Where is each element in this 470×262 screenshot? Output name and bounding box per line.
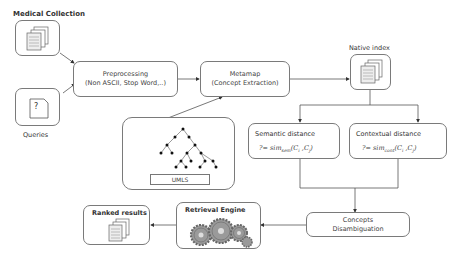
question-mark-glyph: ? (34, 102, 38, 111)
queries-label: Queries (23, 131, 48, 139)
contextual-distance-formula: ?= simcont(Ci ,Cj) (362, 144, 417, 153)
metamap-node: Metamap (Concept Extraction) (200, 61, 290, 97)
medical-collection-label: Medical Collection (13, 10, 85, 18)
documents-icon (16, 21, 61, 57)
retrieval-engine-node: Retrieval Engine (176, 202, 261, 249)
contextual-distance-title: Contextual distance (356, 130, 421, 138)
queries-node: ? (15, 88, 60, 126)
medical-collection-node (15, 20, 60, 56)
preprocessing-subtitle: (Non ASCII, Stop Word,..) (85, 79, 166, 88)
query-document-icon (16, 89, 61, 127)
preprocessing-node: Preprocessing (Non ASCII, Stop Word,..) (73, 61, 178, 97)
umls-node: UMLS (122, 117, 235, 190)
concepts-title: Concepts (343, 216, 373, 225)
semantic-distance-node: Semantic distance ?= simsem(Ci ,Cj) (248, 123, 340, 159)
gears-icon (177, 203, 262, 250)
documents-icon (84, 206, 151, 246)
metamap-title: Metamap (230, 70, 261, 79)
disambiguation-title: Disambiguation (332, 225, 383, 234)
native-index-node (350, 54, 391, 90)
preprocessing-title: Preprocessing (103, 70, 148, 79)
native-index-label: Native index (349, 44, 390, 52)
semantic-distance-title: Semantic distance (255, 130, 315, 138)
umls-label: UMLS (150, 174, 210, 185)
concepts-disambiguation-node: Concepts Disambiguation (306, 212, 410, 237)
ranked-results-node: Ranked results (83, 205, 150, 245)
metamap-subtitle: (Concept Extraction) (211, 79, 278, 88)
contextual-distance-node: Contextual distance ?= simcont(Ci ,Cj) (349, 123, 447, 159)
semantic-distance-formula: ?= simsem(Ci ,Cj) (259, 144, 313, 153)
documents-icon (351, 55, 392, 91)
